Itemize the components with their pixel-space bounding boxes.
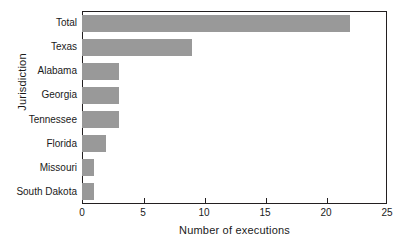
y-tick-label: South Dakota: [0, 187, 77, 197]
bar-row: [82, 156, 387, 180]
bar-chart-figure: Jurisdiction TotalTexasAlabamaGeorgiaTen…: [0, 0, 397, 244]
bar: [82, 135, 106, 152]
y-tick-label: Georgia: [0, 90, 77, 100]
y-tick-label: Total: [0, 18, 77, 28]
bar: [82, 159, 94, 176]
x-tick-label: 20: [306, 207, 346, 218]
bar: [82, 63, 119, 80]
x-tick-label: 25: [367, 207, 397, 218]
bar-row: [82, 35, 387, 59]
y-tick-label: Alabama: [0, 66, 77, 76]
bar: [82, 111, 119, 128]
bar-row: [82, 11, 387, 35]
x-tick-label: 15: [245, 207, 285, 218]
bar: [82, 39, 192, 56]
y-tick-label: Florida: [0, 139, 77, 149]
bar-row: [82, 132, 387, 156]
y-tick-label: Tennessee: [0, 115, 77, 125]
bar: [82, 15, 350, 32]
x-tick-label: 0: [62, 207, 102, 218]
bar-row: [82, 108, 387, 132]
x-tick-label: 10: [184, 207, 224, 218]
bar: [82, 87, 119, 104]
y-axis-title: Jurisdiction: [16, 12, 28, 152]
y-tick-label: Missouri: [0, 163, 77, 173]
x-axis-title: Number of executions: [82, 224, 387, 236]
bar-row: [82, 83, 387, 107]
x-tick-label: 5: [123, 207, 163, 218]
bar-row: [82, 180, 387, 204]
y-tick-label: Texas: [0, 42, 77, 52]
bar-row: [82, 59, 387, 83]
bar: [82, 183, 94, 200]
